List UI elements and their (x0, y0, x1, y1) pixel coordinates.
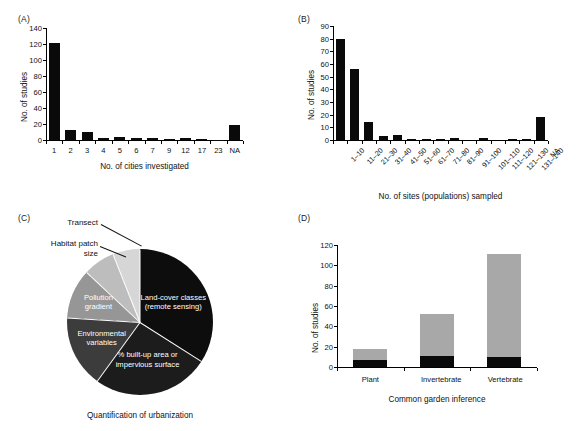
bar-segment (487, 357, 521, 367)
x-tick-mark (112, 141, 113, 144)
panel-d-plot: 020406080100120No. of studiesPlantInvert… (293, 205, 586, 431)
y-tick-label: 90 (307, 22, 329, 31)
panel-d: (D) 020406080100120No. of studiesPlantIn… (293, 205, 586, 431)
panel-c-pie: Land-cover classes (remote sensing)% bui… (0, 205, 293, 431)
bar (393, 135, 402, 140)
x-axis-title: No. of cities investigated (46, 162, 243, 171)
y-tick-mark (330, 89, 333, 90)
pie-callout-label: Transect (44, 218, 98, 228)
bar (407, 139, 416, 140)
x-tick-mark (62, 141, 63, 144)
y-axis-title: No. of studies (307, 70, 316, 120)
bar-segment (420, 314, 454, 356)
y-tick-mark (334, 347, 337, 348)
y-tick-label: 120 (20, 40, 42, 49)
y-axis-line (46, 28, 47, 140)
y-tick-mark (43, 76, 46, 77)
y-tick-mark (334, 326, 337, 327)
panel-a-plot: 020406080100120140No. of studies12345679… (0, 0, 293, 205)
x-tick-mark (433, 141, 434, 144)
y-tick-mark (334, 286, 337, 287)
bar (131, 138, 142, 140)
bar (229, 125, 240, 140)
bar (65, 130, 76, 140)
x-tick-mark (537, 368, 538, 371)
bar-segment (353, 349, 387, 360)
y-tick-label: 0 (307, 136, 329, 145)
y-tick-label: 80 (307, 34, 329, 43)
bar (213, 140, 224, 141)
x-axis-line (337, 367, 537, 368)
x-tick-mark (448, 141, 449, 144)
x-tick-mark (79, 141, 80, 144)
y-tick-mark (334, 265, 337, 266)
bar (180, 138, 191, 140)
y-tick-mark (330, 26, 333, 27)
pie-callout-leader (101, 224, 142, 246)
bar (114, 137, 125, 140)
x-tick-mark (337, 368, 338, 371)
y-tick-mark (330, 77, 333, 78)
y-tick-label: 140 (20, 24, 42, 33)
y-tick-mark (330, 64, 333, 65)
y-tick-label: 10 (307, 123, 329, 132)
y-tick-mark (330, 51, 333, 52)
y-tick-label: 0 (20, 136, 42, 145)
x-axis-title: Common garden inference (337, 395, 537, 404)
bar (379, 136, 388, 140)
bar-segment (353, 360, 387, 367)
panel-c: (C) Land-cover classes (remote sensing)%… (0, 205, 293, 431)
y-tick-label: 100 (20, 56, 42, 65)
x-tick-mark (470, 368, 471, 371)
x-tick-mark (46, 141, 47, 144)
x-axis-title: No. of sites (populations) sampled (333, 192, 548, 201)
y-axis-line (337, 245, 338, 367)
y-tick-label: 70 (307, 47, 329, 56)
y-tick-label: 60 (307, 60, 329, 69)
x-tick-mark (390, 141, 391, 144)
bar (98, 138, 109, 140)
y-axis-line (333, 26, 334, 140)
y-tick-mark (43, 60, 46, 61)
bar (422, 139, 431, 140)
y-tick-label: 100 (311, 261, 333, 270)
x-tick-mark (476, 141, 477, 144)
x-tick-mark (333, 141, 334, 144)
y-tick-label: 120 (311, 241, 333, 250)
x-tick-mark (376, 141, 377, 144)
y-tick-mark (43, 44, 46, 45)
y-tick-mark (334, 245, 337, 246)
bar (164, 139, 175, 140)
y-tick-mark (43, 108, 46, 109)
y-tick-label: 80 (311, 281, 333, 290)
x-tick-mark (194, 141, 195, 144)
panel-b-plot: 0102030405060708090No. of studies1–1011–… (293, 0, 586, 205)
bar (82, 132, 93, 140)
x-tick-mark (505, 141, 506, 144)
x-tick-mark (462, 141, 463, 144)
x-tick-mark (519, 141, 520, 144)
y-tick-mark (43, 28, 46, 29)
x-tick-mark (548, 141, 549, 144)
bar (508, 139, 517, 140)
x-tick-label: NA (219, 146, 251, 155)
pie-caption: Quantification of urbanization (40, 411, 240, 420)
x-tick-mark (227, 141, 228, 144)
y-tick-mark (330, 102, 333, 103)
x-tick-mark (243, 141, 244, 144)
bar (336, 39, 345, 140)
x-tick-label: Vertebrate (488, 375, 520, 384)
x-tick-mark (210, 141, 211, 144)
x-tick-label: Invertebrate (421, 375, 453, 384)
panel-a: (A) 020406080100120140No. of studies1234… (0, 0, 293, 205)
bar (147, 138, 158, 140)
bar (522, 139, 531, 140)
bar-segment (420, 356, 454, 367)
bar (49, 43, 60, 140)
y-tick-mark (330, 127, 333, 128)
panel-b: (B) 0102030405060708090No. of studies1–1… (293, 0, 586, 205)
y-tick-mark (43, 92, 46, 93)
y-tick-label: 0 (311, 363, 333, 372)
pie-callout-label: Habitat patch size (10, 239, 98, 258)
y-tick-mark (43, 124, 46, 125)
